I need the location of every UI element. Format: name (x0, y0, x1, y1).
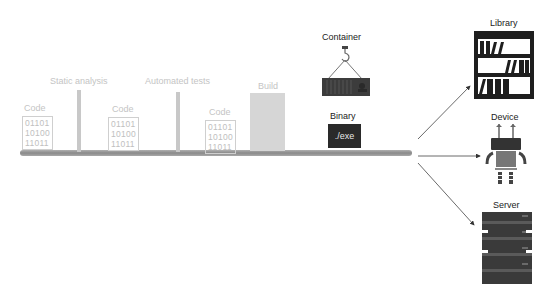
code-label-3: Code (209, 107, 231, 117)
static-analysis-gate (77, 90, 81, 152)
static-analysis-label: Static analysis (50, 76, 108, 86)
automated-tests-gate (176, 92, 180, 152)
code-line: 11011 (208, 142, 233, 152)
server-icon (482, 212, 532, 284)
code-line: 01101 (111, 119, 136, 129)
arrow-to-library (418, 86, 470, 139)
build-box (250, 93, 285, 151)
code-line: 10100 (208, 132, 233, 142)
binary-content: ./exe (335, 131, 355, 141)
code-line: 01101 (208, 122, 233, 132)
code-line: 11011 (25, 138, 50, 148)
build-label: Build (258, 81, 278, 91)
code-label-2: Code (112, 104, 134, 114)
code-block-2: 01101 10100 11011 (108, 117, 139, 151)
binary-box: ./exe (328, 124, 361, 148)
code-line: 10100 (111, 129, 136, 139)
binary-label: Binary (330, 111, 356, 121)
code-block-3: 01101 10100 11011 (205, 120, 236, 154)
code-label-1: Code (24, 103, 46, 113)
device-label: Device (491, 112, 519, 122)
arrow-to-server (418, 163, 474, 225)
server-label: Server (493, 200, 520, 210)
container-icon (318, 44, 374, 98)
device-icon (485, 124, 531, 186)
code-line: 11011 (111, 139, 136, 149)
distribution-arrows (410, 80, 490, 240)
code-block-1: 01101 10100 11011 (22, 116, 53, 150)
library-icon (473, 30, 535, 100)
code-line: 10100 (25, 128, 50, 138)
automated-tests-label: Automated tests (145, 76, 210, 86)
container-label: Container (322, 32, 361, 42)
code-line: 01101 (25, 118, 50, 128)
library-label: Library (490, 18, 518, 28)
